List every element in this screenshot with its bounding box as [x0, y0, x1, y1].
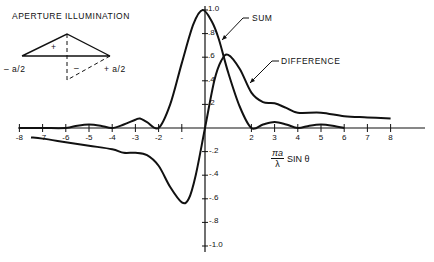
- x-tick-label: -7: [39, 133, 46, 142]
- inset-right-label: + a/2: [104, 64, 126, 74]
- inset-plus-sign: +: [51, 42, 56, 52]
- y-tick-label: -1.0: [209, 240, 223, 249]
- x-axis-label: πa λ SIN θ: [271, 148, 310, 169]
- y-tick-label: 1.0: [208, 4, 219, 13]
- x-tick-label: -2: [155, 133, 162, 142]
- x-tick-label: 5: [319, 133, 323, 142]
- x-tick-label: -8: [16, 133, 23, 142]
- leader-lines: [222, 18, 279, 83]
- x-tick-label: 6: [342, 133, 346, 142]
- series-sum: [19, 10, 344, 129]
- y-tick-label: .4: [208, 75, 215, 84]
- y-tick-label: -.2: [209, 146, 218, 155]
- x-label-suffix: SIN θ: [287, 154, 310, 164]
- inset-diagram: [22, 34, 110, 82]
- x-tick-label: 2: [249, 133, 253, 142]
- x-tick-label: -4: [109, 133, 116, 142]
- y-tick-label: -.6: [209, 193, 218, 202]
- y-tick-label: -.8: [209, 216, 218, 225]
- x-tick-label: 8: [388, 133, 392, 142]
- x-label-numerator: πa: [271, 148, 284, 159]
- x-tick-label: -6: [62, 133, 69, 142]
- x-tick-label: -5: [85, 133, 92, 142]
- x-tick-label: -: [180, 133, 183, 142]
- x-tick-label: 4: [296, 133, 300, 142]
- inset-left-label: – a/2: [4, 64, 25, 74]
- difference-label: DIFFERENCE: [281, 56, 340, 66]
- x-tick-label: 3: [272, 133, 276, 142]
- inset-title: APERTURE ILLUMINATION: [12, 11, 130, 21]
- inset-minus-sign: –: [74, 63, 79, 73]
- y-tick-label: .8: [208, 28, 215, 37]
- y-tick-label: .2: [208, 98, 215, 107]
- y-tick-label: .6: [208, 51, 215, 60]
- x-tick-label: 7: [365, 133, 369, 142]
- y-tick-label: -.4: [209, 169, 218, 178]
- sum-label: SUM: [252, 13, 272, 23]
- x-tick-label: -3: [132, 133, 139, 142]
- x-label-denominator: λ: [275, 159, 280, 169]
